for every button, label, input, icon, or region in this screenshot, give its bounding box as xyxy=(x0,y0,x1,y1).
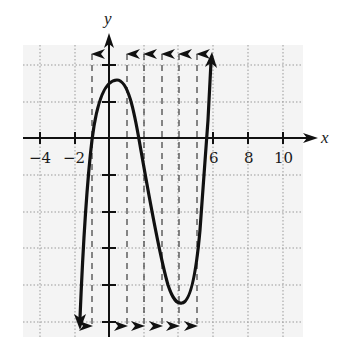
x-tick-label-8: 8 xyxy=(244,149,254,167)
cubic-function-graph: −4 −2 6 8 10 x y xyxy=(0,0,342,351)
x-tick-label-10: 10 xyxy=(274,149,293,167)
x-tick-label-neg2: −2 xyxy=(63,149,85,167)
x-tick-label-6: 6 xyxy=(209,149,219,167)
y-axis-label: y xyxy=(102,9,112,28)
plot-background xyxy=(23,45,303,337)
x-tick-label-neg4: −4 xyxy=(29,149,51,167)
x-axis-label: x xyxy=(320,128,329,147)
